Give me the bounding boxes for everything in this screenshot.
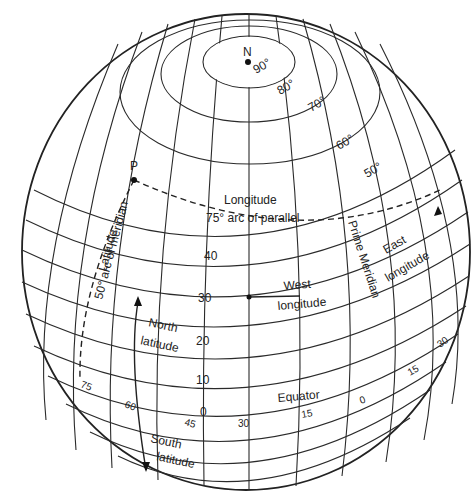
label-70: 70° (306, 93, 329, 114)
parallel-20 (26, 276, 469, 359)
meridian-label-30: 30 (238, 418, 250, 429)
equator-label: Equator (277, 387, 320, 405)
arc-of-parallel-label: 75° arc of parallel (206, 211, 300, 225)
point-p-dot (131, 177, 137, 183)
prime-meridian-label: Prime Meridian (345, 219, 383, 300)
south-latitude-label: latitude (155, 449, 196, 471)
parallel-label-20: 20 (196, 334, 210, 348)
parallel-label-0: 0 (200, 405, 207, 419)
east-label: East (381, 232, 409, 256)
north-label-text: North (147, 315, 179, 335)
north-latitude-arrow (134, 302, 146, 470)
label-60: 60° (334, 131, 357, 152)
point-p-label: P (130, 159, 138, 173)
parallel-label-10: 10 (196, 373, 210, 387)
arc-of-meridian-label: 50° arc of meridian (91, 200, 131, 301)
meridian-label-0: 0 (358, 393, 367, 405)
parallel-label-40: 40 (204, 249, 218, 263)
globe-diagram: N 90° 80° 70° 60° 50° P Longitude 75° ar… (0, 0, 472, 498)
west-label: West (283, 277, 312, 293)
meridian-label-45: 45 (183, 416, 197, 430)
longitude-label: Longitude (224, 193, 277, 207)
parallel-30 (22, 244, 470, 327)
meridian-label-60: 60 (123, 399, 138, 413)
parallel-label-30: 30 (198, 291, 212, 305)
parallel-10 (34, 306, 466, 389)
north-latitude-label: latitude (139, 333, 180, 355)
west-longitude-label: longitude (277, 295, 327, 313)
meridian-45w (157, 19, 195, 480)
meridian-label-15w: 15 (300, 407, 313, 420)
south-label: South (149, 431, 183, 451)
label-50: 50° (362, 159, 385, 180)
equator (48, 334, 458, 416)
north-label: N (243, 45, 252, 59)
